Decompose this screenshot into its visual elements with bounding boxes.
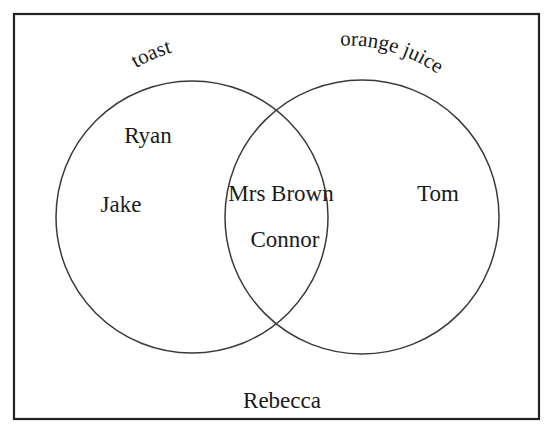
- member-left-only-1: Ryan: [124, 123, 172, 148]
- venn-diagram-page: toast orange juice Ryan Jake Mrs Brown C…: [0, 0, 551, 431]
- member-left-only-2: Jake: [101, 192, 142, 217]
- diagram-frame: [14, 14, 539, 419]
- member-outside-1: Rebecca: [243, 388, 321, 413]
- member-right-only-1: Tom: [417, 181, 459, 206]
- member-intersection-2: Connor: [251, 227, 320, 252]
- venn-diagram-canvas: toast orange juice Ryan Jake Mrs Brown C…: [0, 0, 551, 431]
- member-intersection-1: Mrs Brown: [228, 181, 334, 206]
